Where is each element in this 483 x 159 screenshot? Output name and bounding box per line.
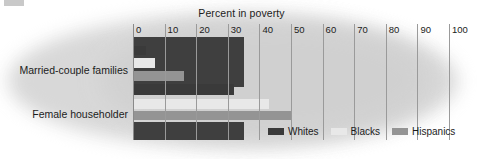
gridline-30 [228,24,229,140]
bar-blacks-group-2 [133,99,269,109]
bar-blacks-group-1 [133,58,155,68]
bar-whites-group-1 [133,46,146,55]
bar-hispanics-group-1 [133,71,184,81]
x-tick-label-40: 40 [262,24,273,35]
gridline-20 [196,24,197,140]
gridline-40 [259,24,260,140]
gridline-70 [354,24,355,140]
x-tick-label-70: 70 [357,24,368,35]
legend-swatch-hispanics [392,128,408,135]
gridline-60 [323,24,324,140]
legend-swatch-whites [268,128,284,135]
gridline-90 [417,24,418,140]
y-axis-category-labels: Married-couple families Female household… [0,0,128,159]
x-tick-label-90: 90 [420,24,431,35]
category-label-female-householder: Female householder [32,108,128,120]
gridline-100 [449,24,450,140]
chart-legend: WhitesBlacksHispanics [268,125,455,137]
x-tick-label-60: 60 [326,24,337,35]
x-tick-label-20: 20 [199,24,210,35]
x-tick-label-100: 100 [452,24,468,35]
x-tick-label-0: 0 [136,24,141,35]
gridline-50 [291,24,292,140]
bar-hispanics-group-2 [133,111,291,120]
gridline-10 [165,24,166,140]
x-tick-label-10: 10 [168,24,179,35]
chart-figure: Percent in poverty 010203040506070809010… [0,0,483,159]
legend-label-hispanics: Hispanics [412,126,455,137]
legend-label-whites: Whites [288,126,319,137]
category-label-married-couple-families: Married-couple families [19,64,128,76]
gridline-80 [386,24,387,140]
x-tick-label-30: 30 [231,24,242,35]
bar-whites-group-2 [133,84,234,95]
legend-item-blacks[interactable]: Blacks [331,126,380,137]
gridline-0 [133,24,134,140]
legend-item-hispanics[interactable]: Hispanics [392,126,455,137]
legend-item-whites[interactable]: Whites [268,126,319,137]
legend-label-blacks: Blacks [351,126,380,137]
x-tick-label-50: 50 [294,24,305,35]
legend-swatch-blacks [331,128,347,135]
x-tick-label-80: 80 [389,24,400,35]
